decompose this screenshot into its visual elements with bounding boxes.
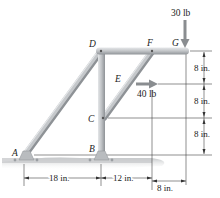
load-30lb <box>181 20 190 48</box>
label-g: G <box>172 38 179 48</box>
pin-f <box>151 50 153 52</box>
pin-d <box>100 50 102 52</box>
dim-v-1: 8 in. <box>194 63 210 73</box>
dim-h-3: 8 in. <box>157 183 173 193</box>
dim-h-1: 18 in. <box>49 173 70 183</box>
dim-v-2: 8 in. <box>194 96 210 106</box>
arrow-down-icon <box>184 20 187 40</box>
label-e: E <box>114 74 121 84</box>
label-c: C <box>88 114 95 124</box>
label-b: B <box>89 144 95 154</box>
member-dg <box>96 48 189 55</box>
label-f: F <box>146 38 153 48</box>
frame-diagram: D F G E C B A 30 lb 40 lb 8 in. 8 in. 8 … <box>0 0 220 198</box>
label-d: D <box>88 39 96 49</box>
arrow-right-icon <box>136 83 150 86</box>
members <box>24 48 189 156</box>
load-g-label: 30 lb <box>171 8 191 18</box>
load-40lb <box>136 80 158 89</box>
dim-v-3: 8 in. <box>194 129 210 139</box>
pin-c <box>102 117 104 119</box>
load-e-label: 40 lb <box>137 89 157 99</box>
member-db <box>98 51 105 155</box>
label-a: A <box>11 148 18 158</box>
dim-h-2: 12 in. <box>113 173 134 183</box>
